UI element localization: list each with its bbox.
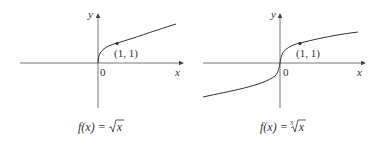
origin-label: 0 xyxy=(100,66,106,78)
graph-cbrt: (1, 1) y x 0 xyxy=(203,8,365,108)
x-axis-label: x xyxy=(356,66,362,78)
origin-label: 0 xyxy=(283,66,289,78)
caption-radicand: x xyxy=(117,120,122,134)
caption-func: f(x) = xyxy=(260,120,291,134)
caption-sqrt: f(x) = x xyxy=(78,120,122,135)
figure-canvas: (1, 1) y x 0 (1, 1) y x 0 3 xyxy=(0,0,382,146)
cbrt-curve xyxy=(203,32,358,97)
x-axis-label: x xyxy=(174,66,180,78)
point-label: (1, 1) xyxy=(114,47,138,60)
point-marker xyxy=(115,42,118,45)
caption-func: f(x) = xyxy=(78,120,109,134)
graph-sqrt: (1, 1) y x 0 xyxy=(20,8,183,108)
point-label: (1, 1) xyxy=(296,47,320,60)
caption-cbrt: f(x) = x xyxy=(260,120,304,135)
point-marker xyxy=(298,42,301,45)
y-axis-label: y xyxy=(270,8,276,20)
y-axis-label: y xyxy=(87,8,93,20)
caption-radicand: x xyxy=(299,120,304,134)
